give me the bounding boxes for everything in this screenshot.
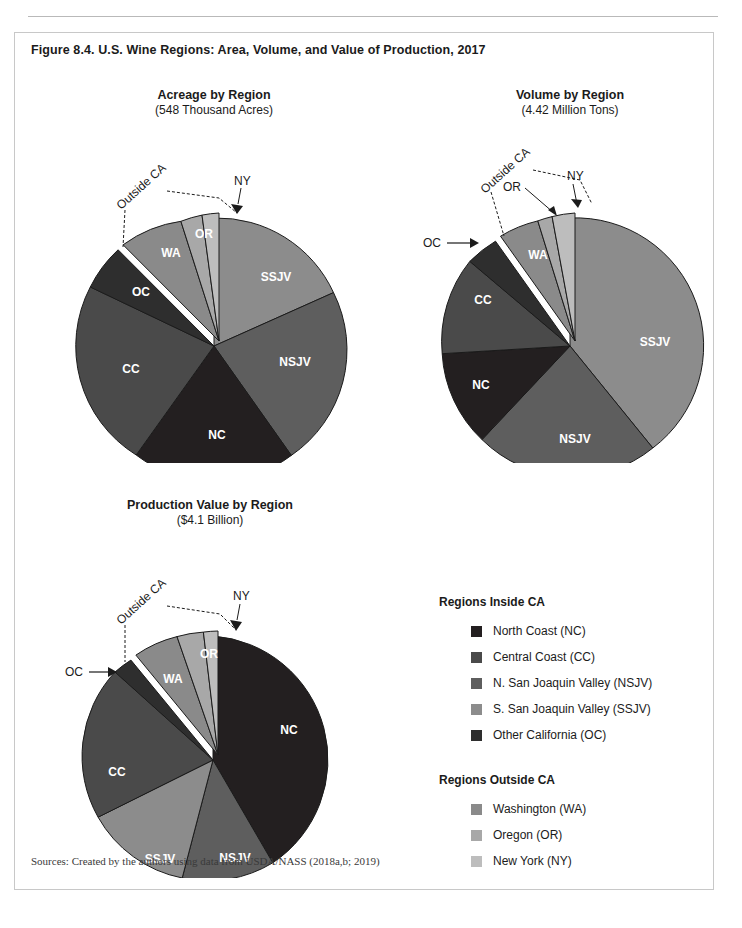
callout-arrow-oc xyxy=(470,238,479,248)
legend-swatch-nsjv xyxy=(471,678,482,689)
legend-swatch-ny xyxy=(471,856,482,867)
chart-production-value-svg: NC NSJV SSJV CC WA OR Outside CA NY OC xyxy=(45,528,375,878)
pie-label-wa: WA xyxy=(528,248,548,262)
page-header-rule xyxy=(28,16,718,17)
pie-label-cc: CC xyxy=(108,765,126,779)
chart-volume: Volume by Region (4.42 Million Tons) SSJ… xyxy=(415,88,725,463)
chart-volume-subtitle: (4.42 Million Tons) xyxy=(415,103,725,118)
chart-acreage-title: Acreage by Region xyxy=(59,88,369,103)
legend-label-ny: New York (NY) xyxy=(493,854,572,868)
chart-acreage-subtitle: (548 Thousand Acres) xyxy=(59,103,369,118)
legend-heading-outside: Regions Outside CA xyxy=(439,773,701,787)
legend-item-nc[interactable]: North Coast (NC) xyxy=(439,618,701,644)
pie-label-nc: NC xyxy=(280,723,298,737)
callout-arrow-ny xyxy=(571,199,582,208)
figure-container: Figure 8.4. U.S. Wine Regions: Area, Vol… xyxy=(14,32,714,890)
pie-label-nc: NC xyxy=(472,378,490,392)
chart-volume-svg: SSJV NSJV NC CC WA Outside CA OR NY OC xyxy=(415,118,725,463)
pie-slices-acreage xyxy=(76,213,347,463)
chart-acreage-svg: SSJV NSJV NC CC OC WA OR Outside CA NY xyxy=(59,118,369,463)
legend: Regions Inside CA North Coast (NC) Centr… xyxy=(439,595,701,874)
pie-label-nc: NC xyxy=(208,428,226,442)
pie-label-nsjv: NSJV xyxy=(279,355,310,369)
pie-label-wa: WA xyxy=(163,672,183,686)
callout-label-outside-ca: Outside CA xyxy=(114,576,169,627)
chart-production-value-subtitle: ($4.1 Billion) xyxy=(45,513,375,528)
legend-swatch-cc xyxy=(471,652,482,663)
legend-item-ny[interactable]: New York (NY) xyxy=(439,848,701,874)
figure-title: Figure 8.4. U.S. Wine Regions: Area, Vol… xyxy=(31,43,486,57)
chart-production-value: Production Value by Region ($4.1 Billion… xyxy=(45,498,375,878)
legend-label-or: Oregon (OR) xyxy=(493,828,562,842)
legend-label-cc: Central Coast (CC) xyxy=(493,650,595,664)
running-head xyxy=(0,0,742,12)
callout-label-ny: NY xyxy=(234,174,251,188)
legend-label-oc: Other California (OC) xyxy=(493,728,606,742)
pie-slices-production-value xyxy=(82,631,328,878)
callout-label-ny: NY xyxy=(233,589,250,603)
callout-label-oc: OC xyxy=(65,665,83,679)
pie-label-cc: CC xyxy=(122,362,140,376)
pie-label-or: OR xyxy=(195,227,213,241)
pie-label-or: OR xyxy=(200,647,218,661)
callout-arrow-or xyxy=(548,206,557,216)
legend-item-oc[interactable]: Other California (OC) xyxy=(439,722,701,748)
pie-label-oc: OC xyxy=(132,285,150,299)
legend-swatch-ssjv xyxy=(471,704,482,715)
callout-label-outside-ca: Outside CA xyxy=(114,161,169,212)
legend-item-or[interactable]: Oregon (OR) xyxy=(439,822,701,848)
pie-label-wa: WA xyxy=(161,246,181,260)
legend-label-nc: North Coast (NC) xyxy=(493,624,586,638)
legend-label-nsjv: N. San Joaquin Valley (NSJV) xyxy=(493,676,652,690)
legend-swatch-or xyxy=(471,830,482,841)
legend-swatch-nc xyxy=(471,626,482,637)
callout-leader-ny xyxy=(237,604,240,620)
legend-heading-inside: Regions Inside CA xyxy=(439,595,701,609)
figure-source-note: Sources: Created by the authors using da… xyxy=(31,855,380,867)
chart-production-value-title: Production Value by Region xyxy=(45,498,375,513)
callout-label-ny: NY xyxy=(567,169,584,183)
legend-item-ssjv[interactable]: S. San Joaquin Valley (SSJV) xyxy=(439,696,701,722)
legend-item-nsjv[interactable]: N. San Joaquin Valley (NSJV) xyxy=(439,670,701,696)
callout-leader-outside-ca-bottom xyxy=(491,192,504,236)
callout-leader-outside-ca-bottom xyxy=(123,210,125,247)
legend-item-cc[interactable]: Central Coast (CC) xyxy=(439,644,701,670)
pie-label-ssjv: SSJV xyxy=(261,270,292,284)
callout-leader-outside-ca-top xyxy=(167,191,237,213)
legend-item-wa[interactable]: Washington (WA) xyxy=(439,796,701,822)
legend-label-ssjv: S. San Joaquin Valley (SSJV) xyxy=(493,702,651,716)
pie-label-cc: CC xyxy=(474,293,492,307)
pie-label-nsjv: NSJV xyxy=(559,432,590,446)
callout-leader-outside-ca-top xyxy=(167,606,235,629)
pie-label-ssjv: SSJV xyxy=(640,335,671,349)
chart-volume-title: Volume by Region xyxy=(415,88,725,103)
legend-swatch-oc xyxy=(471,730,482,741)
legend-swatch-wa xyxy=(471,804,482,815)
callout-leader-ny xyxy=(238,188,241,204)
legend-label-wa: Washington (WA) xyxy=(493,802,586,816)
chart-acreage: Acreage by Region (548 Thousand Acres) S… xyxy=(59,88,369,463)
callout-label-or: OR xyxy=(503,180,521,194)
callout-label-oc: OC xyxy=(423,236,441,250)
